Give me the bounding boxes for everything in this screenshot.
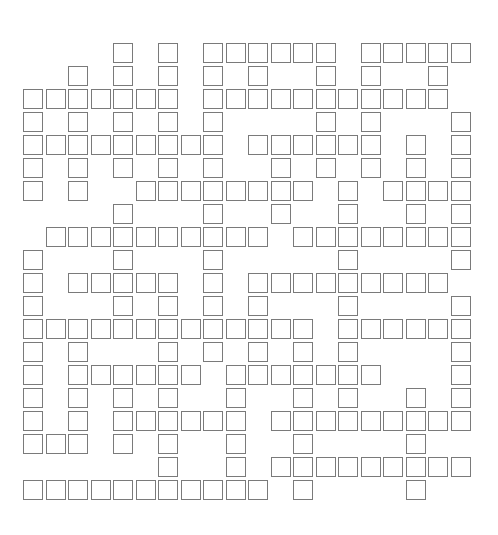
crossword-cell[interactable] [226,89,246,109]
crossword-cell[interactable] [338,227,358,247]
crossword-cell[interactable] [23,434,43,454]
crossword-cell[interactable] [158,365,178,385]
crossword-cell[interactable] [158,43,178,63]
crossword-cell[interactable] [113,250,133,270]
crossword-cell[interactable] [226,388,246,408]
crossword-cell[interactable] [203,319,223,339]
crossword-cell[interactable] [361,135,381,155]
crossword-cell[interactable] [136,319,156,339]
crossword-cell[interactable] [293,411,313,431]
crossword-cell[interactable] [158,342,178,362]
crossword-cell[interactable] [383,43,403,63]
crossword-cell[interactable] [46,480,66,500]
crossword-cell[interactable] [68,342,88,362]
crossword-cell[interactable] [428,43,448,63]
crossword-cell[interactable] [68,135,88,155]
crossword-cell[interactable] [383,273,403,293]
crossword-cell[interactable] [383,319,403,339]
crossword-cell[interactable] [226,365,246,385]
crossword-cell[interactable] [113,365,133,385]
crossword-cell[interactable] [406,135,426,155]
crossword-cell[interactable] [406,319,426,339]
crossword-cell[interactable] [68,112,88,132]
crossword-cell[interactable] [203,204,223,224]
crossword-cell[interactable] [293,480,313,500]
crossword-cell[interactable] [271,89,291,109]
crossword-cell[interactable] [338,204,358,224]
crossword-cell[interactable] [113,158,133,178]
crossword-cell[interactable] [23,181,43,201]
crossword-cell[interactable] [293,135,313,155]
crossword-cell[interactable] [226,480,246,500]
crossword-cell[interactable] [113,89,133,109]
crossword-cell[interactable] [248,89,268,109]
crossword-cell[interactable] [136,273,156,293]
crossword-cell[interactable] [226,434,246,454]
crossword-cell[interactable] [338,181,358,201]
crossword-cell[interactable] [451,250,471,270]
crossword-cell[interactable] [113,66,133,86]
crossword-cell[interactable] [451,365,471,385]
crossword-cell[interactable] [68,227,88,247]
crossword-cell[interactable] [158,66,178,86]
crossword-cell[interactable] [46,434,66,454]
crossword-cell[interactable] [158,388,178,408]
crossword-cell[interactable] [113,434,133,454]
crossword-cell[interactable] [68,411,88,431]
crossword-cell[interactable] [271,273,291,293]
crossword-cell[interactable] [361,227,381,247]
crossword-cell[interactable] [338,411,358,431]
crossword-cell[interactable] [136,89,156,109]
crossword-cell[interactable] [226,457,246,477]
crossword-cell[interactable] [113,204,133,224]
crossword-cell[interactable] [248,181,268,201]
crossword-cell[interactable] [338,135,358,155]
crossword-cell[interactable] [113,135,133,155]
crossword-cell[interactable] [361,365,381,385]
crossword-cell[interactable] [451,112,471,132]
crossword-cell[interactable] [451,181,471,201]
crossword-cell[interactable] [113,227,133,247]
crossword-cell[interactable] [203,158,223,178]
crossword-cell[interactable] [23,296,43,316]
crossword-cell[interactable] [91,135,111,155]
crossword-cell[interactable] [271,181,291,201]
crossword-cell[interactable] [293,365,313,385]
crossword-cell[interactable] [46,319,66,339]
crossword-cell[interactable] [428,227,448,247]
crossword-cell[interactable] [293,457,313,477]
crossword-cell[interactable] [361,319,381,339]
crossword-cell[interactable] [316,411,336,431]
crossword-cell[interactable] [316,135,336,155]
crossword-cell[interactable] [158,135,178,155]
crossword-cell[interactable] [361,66,381,86]
crossword-cell[interactable] [406,204,426,224]
crossword-cell[interactable] [68,89,88,109]
crossword-cell[interactable] [248,342,268,362]
crossword-cell[interactable] [113,480,133,500]
crossword-cell[interactable] [203,135,223,155]
crossword-cell[interactable] [406,158,426,178]
crossword-cell[interactable] [203,480,223,500]
crossword-cell[interactable] [226,411,246,431]
crossword-cell[interactable] [361,112,381,132]
crossword-cell[interactable] [158,227,178,247]
crossword-cell[interactable] [91,227,111,247]
crossword-cell[interactable] [316,158,336,178]
crossword-cell[interactable] [383,181,403,201]
crossword-cell[interactable] [383,411,403,431]
crossword-cell[interactable] [181,181,201,201]
crossword-cell[interactable] [451,296,471,316]
crossword-cell[interactable] [136,365,156,385]
crossword-cell[interactable] [316,89,336,109]
crossword-cell[interactable] [293,273,313,293]
crossword-cell[interactable] [23,135,43,155]
crossword-cell[interactable] [406,89,426,109]
crossword-cell[interactable] [428,273,448,293]
crossword-cell[interactable] [226,227,246,247]
crossword-cell[interactable] [203,43,223,63]
crossword-cell[interactable] [68,388,88,408]
crossword-cell[interactable] [23,112,43,132]
crossword-cell[interactable] [316,112,336,132]
crossword-cell[interactable] [113,388,133,408]
